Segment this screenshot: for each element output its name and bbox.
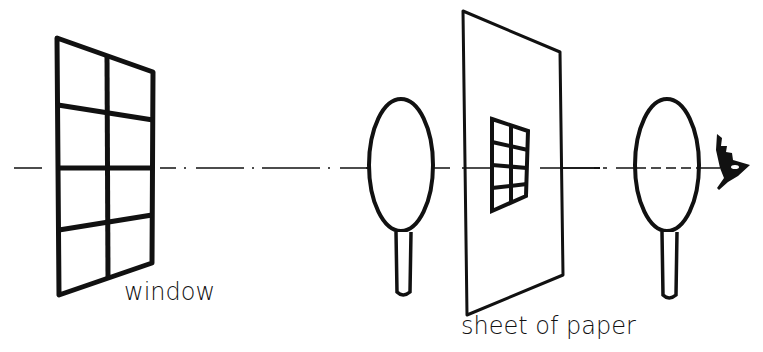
projected-window-image	[492, 119, 528, 211]
sheet-of-paper-label: sheet of paper	[461, 312, 636, 340]
lens-2	[635, 99, 699, 298]
eye-icon	[716, 134, 750, 190]
lens-1	[369, 99, 433, 295]
window-label: window	[124, 278, 215, 306]
window-grid	[57, 38, 153, 295]
optical-diagram	[0, 0, 763, 352]
